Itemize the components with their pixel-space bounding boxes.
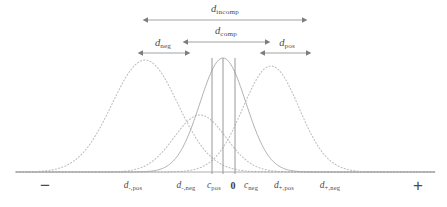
gaussian-curve — [16, 66, 435, 172]
c-neg-label: cneg — [244, 181, 258, 191]
distribution-figure: dincompdcompdnegdposd-,posd-,negcpos0cne… — [0, 0, 447, 207]
d-plus-pos-label: d+,pos — [274, 181, 294, 191]
c-pos-label: cpos — [207, 181, 221, 191]
gaussian-curve — [16, 115, 435, 172]
gaussian-curve — [16, 60, 435, 172]
zero-label: 0 — [231, 181, 236, 191]
d-plus-neg-label: d+,neg — [320, 181, 340, 191]
d-neg-label: dneg — [155, 38, 171, 49]
threshold-vertical-lines — [212, 58, 235, 174]
minus-sign-label: − — [40, 177, 50, 194]
d-minus-pos-label: d-,pos — [124, 181, 142, 191]
d-incomp-label: dincomp — [211, 4, 239, 15]
d-minus-neg-label: d-,neg — [177, 181, 196, 191]
gaussian-curves — [16, 58, 435, 172]
d-comp-label: dcomp — [215, 26, 237, 37]
plus-sign-label: + — [413, 177, 423, 194]
d-pos-label: dpos — [279, 38, 295, 49]
gaussian-curve — [16, 58, 435, 172]
